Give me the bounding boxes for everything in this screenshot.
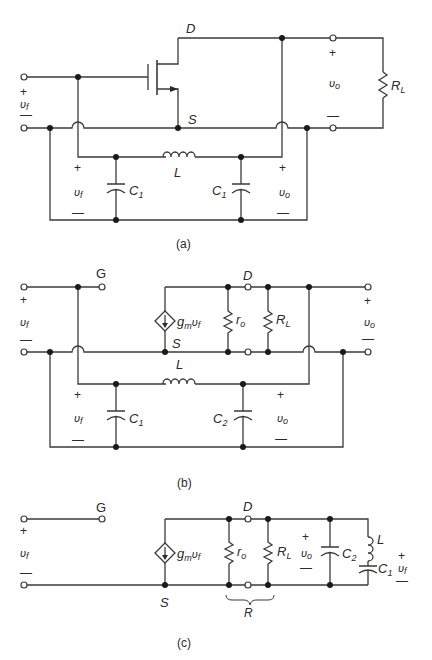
c1-label: C1 bbox=[129, 411, 143, 428]
capacitor-c1-icon bbox=[107, 384, 125, 447]
caption-c: (c) bbox=[177, 636, 191, 650]
output-terminal-top bbox=[330, 35, 336, 41]
svg-text:—: — bbox=[362, 332, 374, 346]
c1-left-label: C1 bbox=[129, 183, 143, 200]
svg-text:+: + bbox=[74, 161, 81, 175]
caption-a: (a) bbox=[176, 237, 191, 251]
svg-text:+: + bbox=[20, 524, 27, 538]
vout-label: υo bbox=[329, 77, 340, 91]
load-bottom-wire bbox=[336, 98, 383, 128]
gate-terminal bbox=[99, 516, 105, 522]
mosfet-symbol bbox=[148, 38, 178, 128]
svg-text:+: + bbox=[398, 549, 405, 563]
inductor-label: L bbox=[176, 357, 183, 372]
load-top-wire bbox=[336, 38, 383, 72]
svg-text:—: — bbox=[396, 574, 408, 588]
drain-label: D bbox=[243, 268, 252, 283]
load-resistor-icon bbox=[379, 72, 387, 98]
inductor-icon bbox=[163, 379, 195, 384]
capacitor-c1-left-icon bbox=[107, 157, 125, 220]
svg-text:—: — bbox=[20, 108, 32, 122]
svg-text:υo: υo bbox=[277, 412, 288, 426]
caption-b: (b) bbox=[177, 476, 192, 490]
drain-label: D bbox=[186, 21, 195, 36]
svg-text:+: + bbox=[279, 161, 286, 175]
load-label: RL bbox=[276, 312, 290, 329]
svg-text:υf: υf bbox=[20, 316, 30, 330]
source-label: S bbox=[188, 112, 197, 127]
load-label: RL bbox=[391, 78, 405, 95]
svg-text:+: + bbox=[20, 85, 27, 99]
inductor-label: L bbox=[174, 165, 181, 180]
capacitor-c2-icon bbox=[321, 519, 339, 585]
current-arrow-icon bbox=[162, 555, 168, 560]
ro-resistor-icon bbox=[224, 287, 232, 352]
svg-text:υf: υf bbox=[74, 412, 84, 426]
capacitor-c2-icon bbox=[234, 384, 252, 447]
svg-text:+: + bbox=[302, 530, 309, 544]
svg-text:—: — bbox=[277, 206, 289, 220]
svg-text:—: — bbox=[72, 206, 84, 220]
gate-label: G bbox=[96, 266, 106, 281]
svg-text:—: — bbox=[300, 561, 312, 575]
inductor-icon bbox=[163, 152, 195, 157]
inductor-icon bbox=[368, 537, 373, 561]
c2-label: C2 bbox=[342, 546, 356, 563]
drain-rail bbox=[165, 519, 368, 537]
panel-a: D S L C1 C1 RL + υf — + υf — + υo — + υo… bbox=[20, 21, 405, 251]
capacitor-c1-right-icon bbox=[232, 157, 250, 220]
gate-to-tank-wire bbox=[78, 77, 166, 157]
svg-text:—: — bbox=[20, 333, 32, 347]
svg-text:+: + bbox=[329, 46, 336, 60]
c2-label: C2 bbox=[213, 411, 227, 428]
gate-label: G bbox=[96, 500, 106, 515]
ro-label: ro bbox=[237, 544, 246, 561]
c1-right-label: C1 bbox=[212, 183, 226, 200]
svg-text:υf: υf bbox=[20, 547, 30, 561]
source-arrow-icon bbox=[170, 86, 178, 92]
svg-text:+: + bbox=[277, 388, 284, 402]
drain-terminal bbox=[245, 516, 251, 522]
load-label: RL bbox=[277, 544, 291, 561]
svg-text:+: + bbox=[20, 293, 27, 307]
svg-text:+: + bbox=[364, 294, 371, 308]
panel-c: G D S gmυf ro RL + υo — C2 L C1 + υf — R… bbox=[20, 499, 408, 650]
gate-terminal bbox=[99, 284, 105, 290]
load-resistor-icon bbox=[264, 519, 272, 585]
drain-label: D bbox=[243, 499, 252, 514]
circuit-figure: D S L C1 C1 RL + υf — + υf — + υo — + υo… bbox=[0, 0, 432, 660]
drain-terminal bbox=[245, 284, 251, 290]
tank-to-drain-wire bbox=[195, 38, 282, 157]
svg-text:+: + bbox=[74, 388, 81, 402]
input-terminal-bottom bbox=[21, 125, 27, 131]
svg-text:—: — bbox=[275, 432, 287, 446]
svg-text:—: — bbox=[20, 566, 32, 580]
svg-text:υo: υo bbox=[364, 316, 375, 330]
brace-icon bbox=[226, 595, 274, 605]
capacitor-c1-icon bbox=[359, 561, 377, 585]
vout-label: υo bbox=[301, 547, 312, 561]
load-resistor-icon bbox=[264, 287, 272, 352]
panel-b: G D S L gmυf ro RL C1 C2 + υf — + υf — +… bbox=[20, 266, 375, 490]
output-terminal-bottom bbox=[330, 125, 336, 131]
ro-label: ro bbox=[236, 312, 245, 329]
bottom-return-wire bbox=[50, 352, 343, 447]
source-label: S bbox=[172, 336, 181, 351]
current-arrow-icon bbox=[162, 323, 168, 328]
ro-resistor-icon bbox=[225, 519, 233, 585]
inductor-label: L bbox=[377, 532, 384, 547]
svg-text:—: — bbox=[327, 109, 339, 123]
c1-label: C1 bbox=[378, 561, 392, 578]
gm-label: gmυf bbox=[177, 314, 202, 331]
source-label: S bbox=[160, 595, 169, 610]
svg-text:υf: υf bbox=[74, 186, 84, 200]
input-terminal-top bbox=[21, 74, 27, 80]
svg-text:υo: υo bbox=[279, 186, 290, 200]
svg-text:—: — bbox=[72, 433, 84, 447]
combined-r-label: R bbox=[244, 606, 253, 620]
gm-label: gmυf bbox=[177, 546, 202, 563]
